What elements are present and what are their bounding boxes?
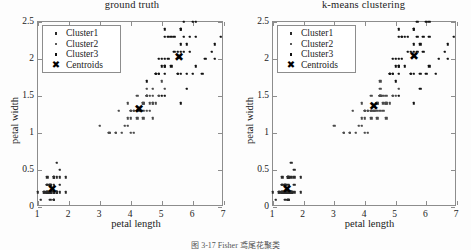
panel-ground-truth: ground truth petal width petal length ✖✖… <box>0 0 236 232</box>
legend-item-cluster1[interactable]: Cluster1 <box>281 28 350 39</box>
y-tick <box>273 133 277 134</box>
y-tick <box>38 207 42 208</box>
x-tick <box>334 201 335 205</box>
x-tick <box>365 201 366 205</box>
y-tick-right <box>451 59 455 60</box>
legend-item-centroids[interactable]: ✖ Centroids <box>46 60 115 71</box>
panel-kmeans: k-means clustering petal width petal len… <box>236 0 471 232</box>
y-tick-right <box>218 207 222 208</box>
y-tick-label: 1 <box>246 127 269 137</box>
x-tick-label: 3 <box>331 209 336 219</box>
y-tick-right <box>218 96 222 97</box>
legend-kmeans: Cluster1 Cluster2 Cluster3 ✖ Centroids <box>277 25 356 73</box>
square-dot-icon <box>46 50 66 59</box>
square-dot-icon <box>281 50 301 59</box>
y-tick-label: 0.5 <box>246 164 269 174</box>
y-tick-label: 0 <box>246 201 269 211</box>
y-tick-right <box>218 133 222 134</box>
x-tick <box>273 201 274 205</box>
y-tick <box>273 207 277 208</box>
x-tick-label: 1 <box>270 209 275 219</box>
x-tick-top <box>224 22 225 26</box>
x-tick <box>426 201 427 205</box>
x-tick-label: 3 <box>97 209 102 219</box>
x-cross-icon: ✖ <box>46 60 66 70</box>
x-tick <box>162 201 163 205</box>
centroid-marker: ✖ <box>409 50 419 62</box>
y-tick-right <box>218 170 222 171</box>
x-axis-title-left: petal length <box>18 218 254 229</box>
centroid-marker: ✖ <box>174 51 184 63</box>
x-tick-top <box>365 22 366 26</box>
legend-item-cluster3[interactable]: Cluster3 <box>46 49 115 60</box>
legend-ground-truth: Cluster1 Cluster2 Cluster3 ✖ Centroids <box>42 25 121 73</box>
figure-two-panel-scatter: ground truth petal width petal length ✖✖… <box>0 0 471 250</box>
x-tick-label: 5 <box>159 209 164 219</box>
figure-caption: 图 3-17 Fisher 鸢尾花聚类 <box>0 239 471 250</box>
x-axis-title-right: petal length <box>252 218 471 229</box>
x-tick-label: 4 <box>128 209 133 219</box>
x-tick <box>100 201 101 205</box>
legend-item-cluster1[interactable]: Cluster1 <box>46 28 115 39</box>
x-tick-label: 7 <box>221 209 226 219</box>
x-tick <box>224 201 225 205</box>
y-tick <box>273 22 277 23</box>
x-tick <box>69 201 70 205</box>
legend-item-centroids[interactable]: ✖ Centroids <box>281 60 350 71</box>
legend-label-cluster1: Cluster1 <box>301 28 333 38</box>
legend-item-cluster2[interactable]: Cluster2 <box>281 39 350 50</box>
legend-item-cluster2[interactable]: Cluster2 <box>46 39 115 50</box>
centroid-marker: ✖ <box>134 103 144 115</box>
y-tick-label: 1.5 <box>11 90 34 100</box>
x-tick-label: 2 <box>66 209 71 219</box>
legend-item-cluster3[interactable]: Cluster3 <box>281 49 350 60</box>
legend-label-centroids: Centroids <box>66 60 103 70</box>
y-tick-label: 2 <box>11 53 34 63</box>
y-tick-label: 0 <box>11 201 34 211</box>
x-cross-icon: ✖ <box>281 60 301 70</box>
x-tick <box>193 201 194 205</box>
legend-label-cluster2: Cluster2 <box>301 39 333 49</box>
y-tick-right <box>451 207 455 208</box>
y-tick <box>38 96 42 97</box>
legend-label-centroids: Centroids <box>301 60 338 70</box>
y-tick-right <box>451 170 455 171</box>
y-tick <box>38 133 42 134</box>
x-tick-top <box>162 22 163 26</box>
legend-label-cluster1: Cluster1 <box>66 28 98 38</box>
x-tick-label: 6 <box>423 209 428 219</box>
y-tick-label: 2.5 <box>11 16 34 26</box>
x-tick-top <box>396 22 397 26</box>
square-dot-icon <box>46 29 66 38</box>
x-tick-label: 4 <box>362 209 367 219</box>
x-tick <box>38 201 39 205</box>
y-tick <box>273 170 277 171</box>
x-tick-label: 5 <box>392 209 397 219</box>
y-tick-right <box>451 96 455 97</box>
y-tick-right <box>451 22 455 23</box>
x-tick <box>396 201 397 205</box>
x-tick-label: 6 <box>190 209 195 219</box>
x-tick <box>457 201 458 205</box>
x-tick <box>131 201 132 205</box>
y-tick <box>38 170 42 171</box>
centroid-marker: ✖ <box>369 100 379 112</box>
legend-label-cluster3: Cluster3 <box>66 49 98 59</box>
y-tick <box>273 96 277 97</box>
y-tick-label: 0.5 <box>11 164 34 174</box>
x-tick <box>304 201 305 205</box>
y-tick-right <box>218 59 222 60</box>
y-tick-label: 2 <box>246 53 269 63</box>
y-tick-label: 2.5 <box>246 16 269 26</box>
panel-title-ground-truth: ground truth <box>0 0 250 10</box>
legend-label-cluster3: Cluster3 <box>301 49 333 59</box>
square-dot-icon <box>281 39 301 48</box>
x-tick-label: 7 <box>454 209 459 219</box>
x-tick-label: 1 <box>35 209 40 219</box>
centroid-marker: ✖ <box>282 183 292 195</box>
x-tick-top <box>457 22 458 26</box>
legend-label-cluster2: Cluster2 <box>66 39 98 49</box>
centroid-marker: ✖ <box>47 183 57 195</box>
x-tick-top <box>131 22 132 26</box>
y-tick-label: 1.5 <box>246 90 269 100</box>
